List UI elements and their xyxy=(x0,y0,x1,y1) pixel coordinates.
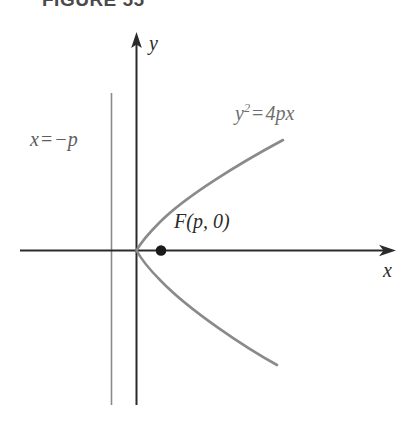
directrix-equals: = xyxy=(39,128,54,150)
focus-point xyxy=(156,245,167,256)
figure-container: FIGURE 55 y x x=−p y2=4px F(p, 0) xyxy=(0,0,418,431)
directrix-label: x=−p xyxy=(30,129,78,149)
parabola-equation-label: y2=4px xyxy=(235,103,294,123)
x-axis-label: x xyxy=(383,260,392,280)
directrix-value: −p xyxy=(54,128,78,150)
equation-base-letter: y xyxy=(235,102,244,124)
directrix-variable: x xyxy=(30,128,39,150)
focus-label: F(p, 0) xyxy=(174,211,230,231)
equation-equals: = xyxy=(250,102,265,124)
y-axis-label: y xyxy=(149,33,158,53)
equation-rhs: 4px xyxy=(265,102,294,124)
